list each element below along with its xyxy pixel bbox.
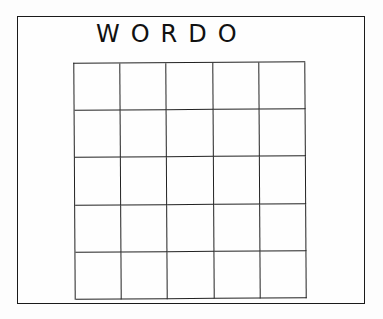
grid-cell-r1-c2[interactable] <box>120 63 166 110</box>
grid-cell-r1-c4[interactable] <box>213 63 259 110</box>
grid-cell-r1-c1[interactable] <box>74 63 120 110</box>
grid-cell-r5-c3[interactable] <box>168 252 214 299</box>
grid-cell-r4-c1[interactable] <box>75 205 121 252</box>
grid-cell-r5-c1[interactable] <box>75 252 121 299</box>
grid-cell-r5-c4[interactable] <box>214 251 260 298</box>
game-title: WORDO <box>96 20 248 48</box>
grid-cell-r3-c3[interactable] <box>167 157 213 204</box>
grid-cell-r2-c5[interactable] <box>259 109 305 156</box>
grid-cell-r3-c4[interactable] <box>213 157 259 204</box>
grid-cell-r3-c2[interactable] <box>121 158 167 205</box>
grid-cell-r1-c5[interactable] <box>259 62 305 109</box>
grid-cell-r5-c5[interactable] <box>260 251 306 298</box>
grid-cell-r2-c3[interactable] <box>167 110 213 157</box>
grid-cell-r1-c3[interactable] <box>167 63 213 110</box>
grid-cell-r2-c2[interactable] <box>121 110 167 157</box>
grid-cell-r3-c1[interactable] <box>75 158 121 205</box>
grid-cell-r4-c4[interactable] <box>214 204 260 251</box>
grid-cell-r4-c5[interactable] <box>260 204 306 251</box>
grid-cell-r4-c2[interactable] <box>121 205 167 252</box>
grid-cell-r3-c5[interactable] <box>260 157 306 204</box>
grid-cell-r2-c1[interactable] <box>75 111 121 158</box>
grid-cell-r2-c4[interactable] <box>213 110 259 157</box>
wordo-grid <box>73 61 306 299</box>
grid-cell-r5-c2[interactable] <box>122 252 168 299</box>
grid-cell-r4-c3[interactable] <box>168 204 214 251</box>
